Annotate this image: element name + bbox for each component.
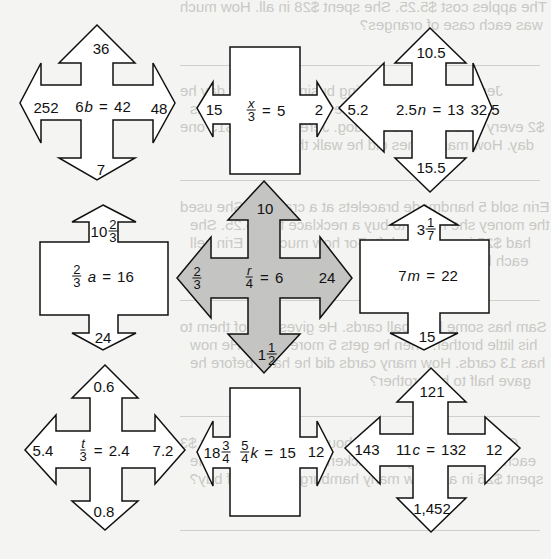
shape-7-left-value: 5.4 xyxy=(33,443,54,459)
shape-7-down-value: 0.8 xyxy=(94,504,115,520)
shape-7-up-value: 0.6 xyxy=(94,379,115,395)
shape-9-up-value: 121 xyxy=(419,384,444,400)
shape-9-down-value: 1,452 xyxy=(413,501,451,517)
shape-6-equation: 7m = 22 xyxy=(398,268,458,284)
shape-5-up-value: 10 xyxy=(257,201,274,217)
shape-6-up-value: 317 xyxy=(417,217,436,242)
shape-3-up-value: 10.5 xyxy=(416,45,445,61)
shape-6-down-value: 15 xyxy=(419,329,436,345)
shape-3-right-value: 32.5 xyxy=(470,102,499,118)
shape-1-up-value: 36 xyxy=(93,41,110,57)
shape-1-left-value: 252 xyxy=(33,100,58,116)
shape-8-equation: 54k = 15 xyxy=(240,440,296,465)
shape-2-equation: x3 = 5 xyxy=(247,98,286,123)
shape-4-down-value: 24 xyxy=(95,330,112,346)
shape-1-equation: 6b = 42 xyxy=(75,99,130,115)
shape-4-equation: 23 a = 16 xyxy=(72,264,134,289)
shape-7-equation: t3 = 2.4 xyxy=(78,438,129,463)
shape-1-down-value: 7 xyxy=(97,162,105,178)
shape-3-left-value: 5.2 xyxy=(348,102,369,118)
shape-1-right-value: 48 xyxy=(151,101,168,117)
shape-8-left-value: 1834 xyxy=(204,440,231,465)
shape-7-right-value: 7.2 xyxy=(153,443,174,459)
shape-5-left-value: 23 xyxy=(192,266,201,291)
shape-2-right-value: 2 xyxy=(315,102,323,118)
shape-5-right-value: 24 xyxy=(319,270,336,286)
shape-3-equation: 2.5n = 13 xyxy=(396,102,464,118)
shape-9-left-value: 143 xyxy=(354,442,379,458)
shape-4-up-value: 1023 xyxy=(91,219,118,244)
shape-3-down-value: 15.5 xyxy=(416,160,445,176)
shape-9-equation: 11c = 132 xyxy=(396,442,466,458)
shape-5-equation: r4 = 6 xyxy=(245,265,284,290)
shape-5-down-value: 112 xyxy=(258,342,277,367)
shape-8-right-value: 12 xyxy=(308,444,325,460)
shape-9-right-value: 12 xyxy=(486,442,503,458)
shape-2-left-value: 15 xyxy=(206,102,223,118)
